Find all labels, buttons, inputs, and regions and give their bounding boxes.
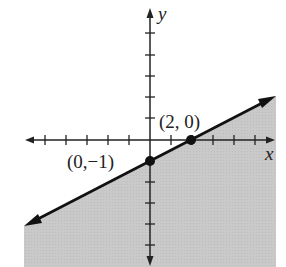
point-0-neg1 — [145, 156, 155, 166]
y-axis-up-arrow-icon — [147, 8, 154, 18]
x-axis-left-arrow-icon — [25, 137, 34, 144]
point-b-label: (2, 0) — [159, 111, 200, 133]
y-axis-label: y — [156, 3, 167, 24]
inequality-graph: (2, 0) (0,−1) x y — [0, 0, 286, 267]
point-2-0 — [186, 135, 196, 145]
point-a-label: (0,−1) — [67, 151, 114, 173]
x-axis-label: x — [264, 143, 274, 164]
